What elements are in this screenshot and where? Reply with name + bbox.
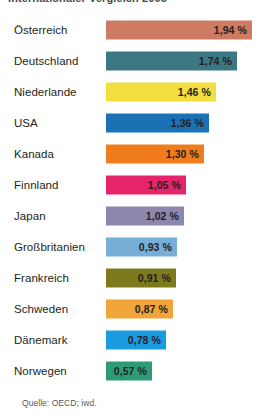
bar-norwegen: 0,57 % bbox=[106, 361, 152, 380]
bar-japan: 1,02 % bbox=[106, 206, 184, 225]
bar-track: 1,36 % bbox=[106, 113, 209, 132]
bar-category-label: Österreich bbox=[14, 24, 68, 36]
chart-headline: Internationaler Vergleich 2005 bbox=[8, 0, 251, 7]
bar-track: 0,91 % bbox=[106, 268, 176, 287]
chart-row: Niederlande1,46 % bbox=[0, 76, 259, 107]
bar-category-label: Deutschland bbox=[14, 55, 78, 67]
bar-category-label: Frankreich bbox=[14, 272, 69, 284]
bar-category-label: Niederlande bbox=[14, 86, 77, 98]
bar-value-label: 1,46 % bbox=[178, 86, 216, 98]
chart-headline-text: Internationaler Vergleich 2005 bbox=[8, 0, 167, 4]
bar-category-label: Kanada bbox=[14, 148, 54, 160]
bar--sterreich: 1,94 % bbox=[106, 20, 252, 39]
bar-schweden: 0,87 % bbox=[106, 299, 173, 318]
bar-deutschland: 1,74 % bbox=[106, 51, 237, 70]
bar-gro-britanien: 0,93 % bbox=[106, 237, 177, 256]
bar-category-label: Finnland bbox=[14, 179, 59, 191]
bar-track: 1,05 % bbox=[106, 175, 186, 194]
bar-value-label: 0,78 % bbox=[128, 334, 166, 346]
bar-value-label: 1,94 % bbox=[214, 24, 252, 36]
chart-row: Finnland1,05 % bbox=[0, 169, 259, 200]
bar-value-label: 0,93 % bbox=[139, 241, 177, 253]
bar-category-label: Japan bbox=[14, 210, 46, 222]
chart-row: Deutschland1,74 % bbox=[0, 45, 259, 76]
bar-finnland: 1,05 % bbox=[106, 175, 186, 194]
bar-category-label: Dänemark bbox=[14, 334, 67, 346]
chart-row: Österreich1,94 % bbox=[0, 14, 259, 45]
bar-value-label: 0,91 % bbox=[138, 272, 176, 284]
bar-track: 0,78 % bbox=[106, 330, 166, 349]
bar-value-label: 1,36 % bbox=[171, 117, 209, 129]
bar-track: 1,74 % bbox=[106, 51, 237, 70]
chart-row: USA1,36 % bbox=[0, 107, 259, 138]
bar-usa: 1,36 % bbox=[106, 113, 209, 132]
bar-track: 0,57 % bbox=[106, 361, 152, 380]
chart-row: Großbritanien0,93 % bbox=[0, 231, 259, 262]
bar-chart: Österreich1,94 %Deutschland1,74 %Niederl… bbox=[0, 14, 259, 386]
chart-row: Kanada1,30 % bbox=[0, 138, 259, 169]
bar-category-label: Schweden bbox=[14, 303, 68, 315]
bar-value-label: 0,87 % bbox=[135, 303, 173, 315]
chart-row: Dänemark0,78 % bbox=[0, 324, 259, 355]
bar-track: 1,02 % bbox=[106, 206, 184, 225]
bar-value-label: 1,74 % bbox=[199, 55, 237, 67]
bar-category-label: Großbritanien bbox=[14, 241, 85, 253]
chart-row: Frankreich0,91 % bbox=[0, 262, 259, 293]
bar-category-label: USA bbox=[14, 117, 38, 129]
bar-niederlande: 1,46 % bbox=[106, 82, 216, 101]
bar-category-label: Norwegen bbox=[14, 365, 67, 377]
chart-row: Japan1,02 % bbox=[0, 200, 259, 231]
bar-d-nemark: 0,78 % bbox=[106, 330, 166, 349]
bar-kanada: 1,30 % bbox=[106, 144, 204, 163]
bar-track: 1,30 % bbox=[106, 144, 204, 163]
bar-track: 0,93 % bbox=[106, 237, 177, 256]
bar-track: 1,94 % bbox=[106, 20, 252, 39]
bar-value-label: 0,57 % bbox=[114, 365, 152, 377]
bar-value-label: 1,05 % bbox=[148, 179, 186, 191]
chart-row: Schweden0,87 % bbox=[0, 293, 259, 324]
chart-row: Norwegen0,57 % bbox=[0, 355, 259, 386]
bar-track: 0,87 % bbox=[106, 299, 173, 318]
bar-value-label: 1,02 % bbox=[146, 210, 184, 222]
bar-value-label: 1,30 % bbox=[166, 148, 204, 160]
bar-track: 1,46 % bbox=[106, 82, 216, 101]
bar-frankreich: 0,91 % bbox=[106, 268, 176, 287]
chart-source-note: Quelle: OECD; iwd. bbox=[22, 398, 97, 408]
